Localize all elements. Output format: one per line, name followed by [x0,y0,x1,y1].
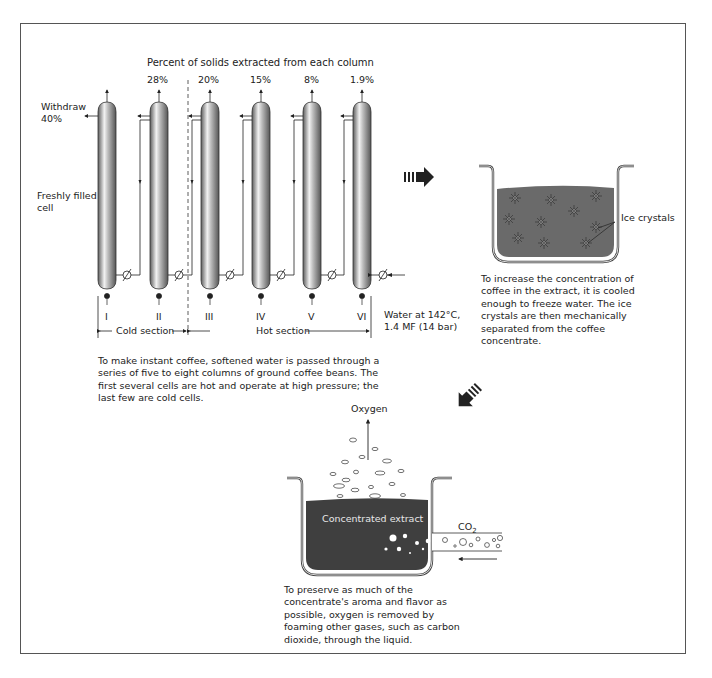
column-2-percent: 28% [147,74,168,86]
column-1 [98,102,116,289]
diagram-title: Percent of solids extracted from each co… [147,57,374,69]
column-5 [303,102,321,289]
hot-section-label: Hot section [256,325,310,337]
column-3-numeral: III [205,311,213,323]
top-outlet-arrows [107,90,362,102]
fresh-cell-label-1: Freshly filled [37,190,97,202]
column-4-numeral: IV [256,311,265,323]
oxygen-label: Oxygen [351,403,388,415]
column-4-percent: 15% [250,74,271,86]
cold-section-label: Cold section [116,325,174,337]
withdraw-percent: 40% [41,113,62,125]
column-5-numeral: V [308,311,315,323]
column-1-numeral: I [105,311,108,323]
co2-subscript: 2 [472,527,476,535]
freezing-pot [479,166,634,262]
fresh-cell-label-2: cell [37,202,53,214]
co2-text: CO [458,521,472,532]
water-label-2: 1.4 MF (14 bar) [384,321,457,333]
column-3-percent: 20% [198,74,219,86]
ice-crystals-label: Ice crystals [621,212,675,224]
co2-label: CO2 [458,521,477,537]
concentrated-extract-label: Concentrated extract [322,513,423,525]
process-arrow-right-icon [404,167,434,187]
foam-caption: To preserve as much of the concentrate's… [284,584,469,646]
column-5-percent: 8% [304,74,319,86]
water-label-1: Water at 142°C, [384,309,460,321]
column-2-numeral: II [156,311,162,323]
extraction-caption: To make instant coffee, softened water i… [98,355,398,405]
foaming-pot [287,420,503,575]
column-6 [353,102,371,289]
column-6-numeral: VI [357,311,366,323]
column-2 [150,102,168,289]
bottom-drain-icons [104,293,364,305]
column-4 [252,102,270,289]
extraction-columns [98,102,371,289]
column-6-percent: 1.9% [350,74,374,86]
column-3 [201,102,219,289]
freeze-caption: To increase the concentration of coffee … [481,273,661,347]
process-arrow-down-left-icon [452,379,486,413]
withdraw-label: Withdraw [41,101,86,113]
